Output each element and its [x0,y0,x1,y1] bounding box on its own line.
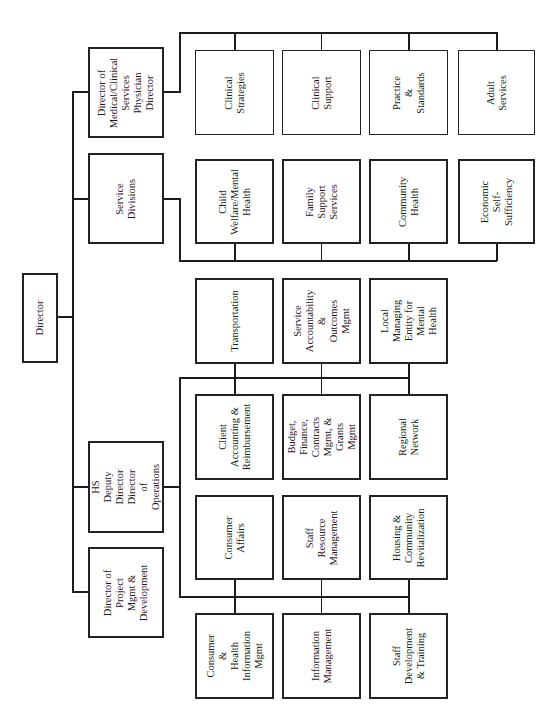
tick [234,32,236,50]
unit-label: Client Accounting & Reimbursement [217,404,253,471]
connector-spine [72,91,74,592]
director-label: Director [34,301,46,336]
unit-label: Child Welfare/Mental Health [217,169,253,235]
tick [408,32,410,50]
regional-network-box[interactable]: Regional Network [369,394,448,480]
unit-label: Clinical Strategies [223,72,247,113]
unit-label: Regional Network [397,418,421,456]
tick [496,243,498,261]
unit-label: Budget, Finance, Contracts Mgmt, & Grant… [286,417,358,457]
connector-service-vert [179,198,181,260]
connector-medical [72,91,88,93]
connector-service-out [163,198,180,200]
unit-label: Information Management [310,629,334,684]
unit-label: Clinical Support [310,76,334,109]
connector-director [57,316,73,318]
connector-medical-out [163,91,180,93]
unit-label: Staff Resource Management [304,510,340,565]
unit-label: Community Health [397,176,421,226]
connector-deputy-vert [179,377,181,597]
tick [321,363,322,395]
tick [234,579,236,614]
unit-label: Service Accountability & Outcomes Mgmt [292,290,352,352]
adult-services-box[interactable]: Adult Services [458,50,535,135]
service-divisions-label: Service Divisions [114,178,138,218]
tick [496,32,498,50]
connector-ops-bus-lower [179,596,409,598]
deputy-director-label: HS Deputy Director Director of Operation… [90,464,162,510]
consumer-affairs-box[interactable]: Consumer Affairs [195,495,274,580]
tick [408,579,410,614]
unit-label: Practice & Standards [391,72,427,113]
project-director-box[interactable]: Director of Project Mgmt & Development [88,547,164,638]
connector-service [72,198,88,200]
director-box[interactable]: Director [22,273,58,363]
client-accounting-box[interactable]: Client Accounting & Reimbursement [195,394,274,480]
connector-project [72,591,88,593]
community-health-box[interactable]: Community Health [369,159,448,244]
staff-resource-box[interactable]: Staff Resource Management [282,495,361,580]
unit-label: Adult Services [485,74,509,112]
tick [321,579,322,614]
family-support-box[interactable]: Family Support Services [282,159,361,244]
connector-ops-bus-upper [179,377,409,379]
clinical-strategies-box[interactable]: Clinical Strategies [195,50,274,135]
tick [321,32,322,50]
housing-community-box[interactable]: Housing & Community Revitalization [369,495,448,580]
unit-label: Consumer Affairs [223,516,247,559]
economic-self-sufficiency-box[interactable]: Economic Self-Sufficiency [458,159,535,244]
practice-standards-box[interactable]: Practice & Standards [369,50,448,135]
connector-deputy-out [163,486,180,488]
connector-service-bus [179,260,497,262]
connector-deputy [72,486,88,488]
medical-director-box[interactable]: Director of Medical/Clinical Services Ph… [88,47,164,138]
unit-label: Consumer & Health Information Mgmt [205,631,265,681]
tick [408,363,410,395]
connector-medical-vert [179,32,181,93]
medical-director-label: Director of Medical/Clinical Services Ph… [96,57,156,128]
unit-label: Economic Self-Sufficiency [479,177,515,225]
tick [234,243,236,261]
transportation-box[interactable]: Transportation [195,278,274,364]
tick [321,243,322,261]
budget-finance-box[interactable]: Budget, Finance, Contracts Mgmt, & Grant… [282,394,361,480]
service-accountability-box[interactable]: Service Accountability & Outcomes Mgmt [282,278,361,364]
clinical-support-box[interactable]: Clinical Support [282,50,361,135]
unit-label: Transportation [229,290,241,351]
unit-label: Staff Development & Training [391,628,427,685]
deputy-director-box[interactable]: HS Deputy Director Director of Operation… [88,441,164,533]
project-director-label: Director of Project Mgmt & Development [102,564,150,621]
staff-development-box[interactable]: Staff Development & Training [369,613,448,699]
child-welfare-box[interactable]: Child Welfare/Mental Health [195,159,274,244]
connector-medical-bus [179,32,497,34]
consumer-health-info-box[interactable]: Consumer & Health Information Mgmt [195,613,274,699]
information-management-box[interactable]: Information Management [282,613,361,699]
tick [234,363,236,395]
service-divisions-box[interactable]: Service Divisions [88,153,164,244]
unit-label: Local Managing Entity for Mental Health [379,300,439,343]
unit-label: Housing & Community Revitalization [391,508,427,567]
tick [408,243,410,261]
local-managing-entity-box[interactable]: Local Managing Entity for Mental Health [369,278,448,364]
unit-label: Family Support Services [304,183,340,221]
